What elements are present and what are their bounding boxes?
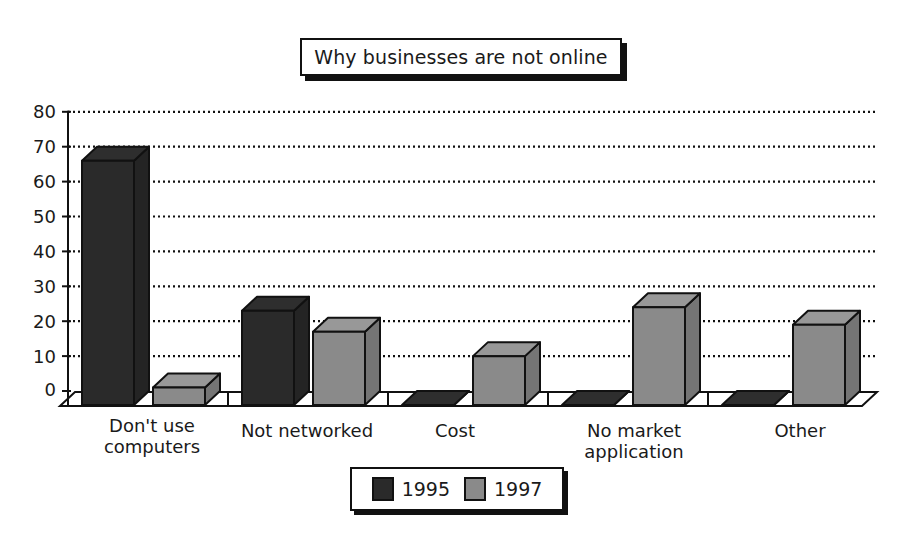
legend-swatch-1997 bbox=[464, 477, 486, 501]
y-axis bbox=[62, 111, 71, 406]
bar-1995-0 bbox=[82, 147, 149, 405]
chart-title: Why businesses are not online bbox=[300, 38, 622, 76]
gridlines bbox=[68, 112, 877, 356]
legend-label-1995: 1995 bbox=[402, 478, 450, 500]
y-tick-70: 70 bbox=[24, 138, 56, 156]
bar-1997-4 bbox=[793, 311, 860, 405]
y-tick-10: 10 bbox=[24, 348, 56, 366]
bar-1997-0 bbox=[153, 374, 220, 405]
y-tick-80: 80 bbox=[24, 103, 56, 121]
bar-1997-3 bbox=[633, 293, 700, 405]
x-label-no-market-application: No market application bbox=[566, 420, 702, 462]
y-tick-50: 50 bbox=[24, 208, 56, 226]
x-label-other: Other bbox=[760, 420, 840, 441]
legend-item-1995: 1995 bbox=[372, 477, 450, 501]
bars bbox=[82, 147, 860, 405]
y-tick-40: 40 bbox=[24, 243, 56, 261]
legend-item-1997: 1997 bbox=[464, 477, 542, 501]
x-label-not-networked: Not networked bbox=[232, 420, 382, 441]
bar-1997-1 bbox=[313, 318, 380, 405]
x-label-dont-use-computers: Don't use computers bbox=[82, 415, 222, 457]
legend: 1995 1997 bbox=[350, 467, 564, 511]
y-tick-30: 30 bbox=[24, 278, 56, 296]
legend-label-1997: 1997 bbox=[494, 478, 542, 500]
y-tick-20: 20 bbox=[24, 313, 56, 331]
y-tick-60: 60 bbox=[24, 173, 56, 191]
bar-1997-2 bbox=[473, 342, 540, 405]
legend-swatch-1995 bbox=[372, 477, 394, 501]
y-tick-0: 0 bbox=[24, 381, 56, 399]
bar-1995-1 bbox=[242, 297, 309, 405]
chart-title-text: Why businesses are not online bbox=[314, 46, 607, 68]
x-label-cost: Cost bbox=[420, 420, 490, 441]
